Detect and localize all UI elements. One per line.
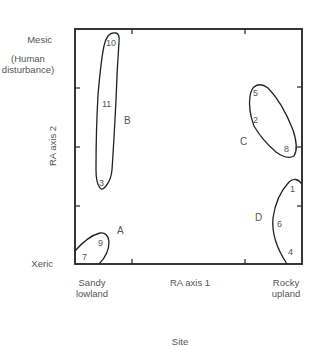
point-9: 9 [98,238,103,248]
point-6: 6 [277,219,282,229]
x-site-title: Site [160,336,200,347]
y-top-note-line2: disturbance) [0,64,56,76]
point-2: 2 [253,115,258,125]
group-a-outline [75,233,109,264]
x-left-label-line2: lowland [70,288,114,300]
y-axis-title: RA axis 2 [47,116,58,176]
point-5: 5 [253,88,258,98]
group-label-d: D [255,212,262,223]
x-axis-title: RA axis 1 [158,277,222,289]
point-10: 10 [106,38,116,48]
group-label-c: C [240,136,247,147]
group-label-b: B [124,115,131,126]
point-11: 11 [102,99,111,109]
point-1: 1 [290,184,295,194]
point-8: 8 [284,144,289,154]
y-top-label: Mesic [0,34,52,46]
group-b-outline [96,33,119,189]
group-label-a: A [117,225,124,236]
y-bottom-label: Xeric [0,258,53,270]
point-7: 7 [82,252,87,262]
point-4: 4 [288,247,293,257]
x-right-label-line2: upland [264,288,308,300]
plot-frame [75,29,302,264]
point-3: 3 [99,178,104,188]
